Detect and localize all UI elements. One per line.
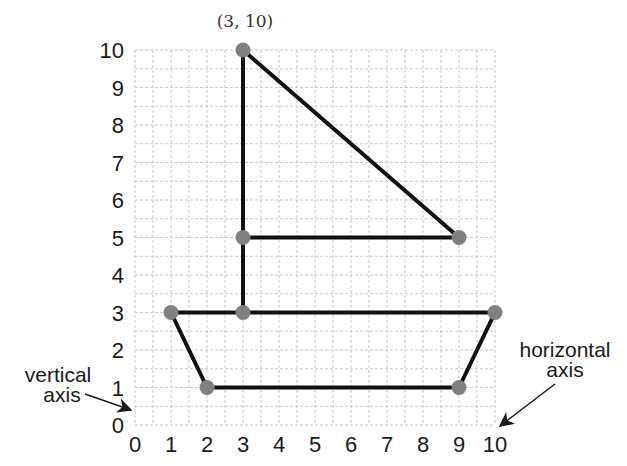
point-marker <box>236 305 251 320</box>
point-marker <box>452 380 467 395</box>
point-marker <box>452 230 467 245</box>
x-tick-label: 1 <box>165 432 177 457</box>
y-tick-label: 8 <box>112 113 124 138</box>
x-tick-label: 2 <box>201 432 213 457</box>
y-tick-label: 9 <box>112 76 124 101</box>
x-tick-label: 9 <box>453 432 465 457</box>
point-marker <box>164 305 179 320</box>
point-label-3-10: (3, 10) <box>217 11 274 31</box>
y-tick-label: 5 <box>112 226 124 251</box>
x-tick-label: 5 <box>309 432 321 457</box>
x-tick-label: 3 <box>237 432 249 457</box>
y-tick-label: 0 <box>112 413 124 438</box>
y-tick-label: 6 <box>112 188 124 213</box>
x-tick-label: 6 <box>345 432 357 457</box>
horizontal-axis-arrow-icon <box>500 384 555 426</box>
y-axis-ticks: 012345678910 <box>100 38 124 438</box>
horizontal-axis-label: horizontal axis <box>500 338 611 426</box>
y-tick-label: 4 <box>112 263 124 288</box>
point-marker <box>200 380 215 395</box>
y-tick-label: 1 <box>112 376 124 401</box>
point-marker <box>236 230 251 245</box>
y-tick-label: 2 <box>112 338 124 363</box>
point-marker <box>488 305 503 320</box>
svg-text:axis: axis <box>43 383 80 406</box>
x-tick-label: 0 <box>129 432 141 457</box>
x-tick-label: 8 <box>417 432 429 457</box>
x-tick-label: 10 <box>483 432 507 457</box>
vertical-axis-arrow-icon <box>85 394 131 410</box>
point-marker <box>236 43 251 58</box>
y-tick-label: 10 <box>100 38 124 63</box>
svg-text:axis: axis <box>546 358 583 381</box>
y-tick-label: 3 <box>112 301 124 326</box>
y-tick-label: 7 <box>112 151 124 176</box>
x-tick-label: 7 <box>381 432 393 457</box>
x-axis-ticks: 012345678910 <box>129 432 507 457</box>
x-tick-label: 4 <box>273 432 285 457</box>
coordinate-grid-diagram: 012345678910 012345678910 (3, 10) vertic… <box>0 0 627 466</box>
